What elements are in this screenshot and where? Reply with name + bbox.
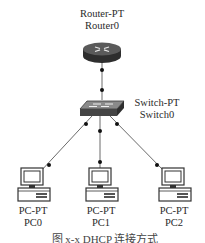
network-diagram: Router-PT Router0 Switch-PT Switch0 PC-P… [0,0,205,243]
pc0-label: PC-PT PC0 [8,205,58,229]
pc1-label: PC-PT PC1 [76,205,126,229]
router-name: Router0 [62,20,142,32]
pc2-label: PC-PT PC2 [149,205,199,229]
figure-caption: 图 x-x DHCP 连接方式 [40,232,170,243]
router-model: Router-PT [62,8,142,20]
switch-label: Switch-PT Switch0 [124,97,190,121]
switch-model: Switch-PT [124,97,190,109]
pc2-model: PC-PT [149,205,199,217]
link-endpoint-dot [100,68,104,72]
pc-icon [158,167,192,203]
link-endpoint-dot [100,88,104,92]
pc2-name: PC2 [149,217,199,229]
link-endpoint-dot [115,122,119,126]
link-endpoint-dot [84,122,88,126]
switch-icon [79,100,125,118]
pc1-name: PC1 [76,217,126,229]
pc0-model: PC-PT [8,205,58,217]
link-endpoint-dot [98,160,102,164]
router-label: Router-PT Router0 [62,8,142,32]
pc-icon [85,167,119,203]
pc0-name: PC0 [8,217,58,229]
switch-name: Switch0 [124,109,190,121]
pc1-model: PC-PT [76,205,126,217]
pc-icon [17,167,51,203]
router-icon [82,42,122,64]
link-endpoint-dot [98,129,102,133]
